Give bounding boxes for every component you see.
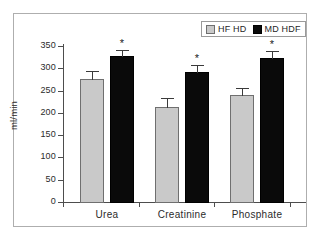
- x-tick-mark-0: [63, 203, 64, 207]
- bar-urea-md-hdf: [110, 56, 134, 203]
- bar-creatinine-hf-hd: [155, 107, 179, 203]
- error-cap-phosphate-md-hdf: [266, 51, 279, 52]
- y-tick-label-100: 100: [16, 152, 56, 161]
- bar-creatinine-md-hdf: [185, 72, 209, 203]
- y-tick-label-0: 0: [16, 197, 56, 206]
- y-tick-label-50: 50: [16, 175, 56, 184]
- significance-star-phosphate: *: [265, 39, 279, 50]
- x-tick-mark-2: [214, 203, 215, 207]
- significance-star-creatinine: *: [190, 53, 204, 64]
- legend-item-hf-hd[interactable]: HF HD: [206, 24, 247, 34]
- significance-star-urea: *: [115, 38, 129, 49]
- error-cap-creatinine-hf-hd: [161, 98, 174, 99]
- bar-urea-hf-hd: [80, 79, 104, 203]
- y-tick-mark-350: [58, 46, 63, 47]
- legend-swatch-md-hdf-icon: [253, 25, 262, 34]
- y-tick-mark-300: [58, 68, 63, 69]
- legend-label-md-hdf: MD HDF: [265, 24, 301, 34]
- legend-swatch-hf-hd-icon: [206, 25, 215, 34]
- bar-phosphate-md-hdf: [260, 58, 284, 203]
- y-tick-mark-100: [58, 157, 63, 158]
- error-cap-urea-md-hdf: [116, 50, 129, 51]
- y-tick-label-150: 150: [16, 130, 56, 139]
- y-tick-label-350: 350: [16, 41, 56, 50]
- legend-label-hf-hd: HF HD: [218, 24, 247, 34]
- x-tick-mark-1: [139, 203, 140, 207]
- legend-item-md-hdf[interactable]: MD HDF: [253, 24, 301, 34]
- x-tick-mark-3: [290, 203, 291, 207]
- y-tick-mark-150: [58, 135, 63, 136]
- error-cap-phosphate-hf-hd: [236, 88, 249, 89]
- error-bar-urea-md-hdf: [122, 50, 123, 57]
- error-bar-urea-hf-hd: [92, 71, 93, 80]
- error-bar-phosphate-hf-hd: [242, 88, 243, 96]
- figure-canvas: ml/min 350 300 250 200 150 100 50 0 *: [0, 0, 321, 238]
- error-bar-phosphate-md-hdf: [272, 51, 273, 59]
- y-axis-line: [63, 44, 64, 203]
- error-bar-creatinine-hf-hd: [167, 98, 168, 108]
- y-tick-mark-50: [58, 180, 63, 181]
- y-tick-label-200: 200: [16, 108, 56, 117]
- x-category-label-phosphate: Phosphate: [212, 209, 302, 220]
- y-tick-label-300: 300: [16, 63, 56, 72]
- y-tick-label-250: 250: [16, 86, 56, 95]
- chart-legend: HF HD MD HDF: [201, 21, 306, 37]
- bar-phosphate-hf-hd: [230, 95, 254, 203]
- error-cap-urea-hf-hd: [86, 71, 99, 72]
- error-cap-creatinine-md-hdf: [191, 65, 204, 66]
- y-tick-mark-200: [58, 113, 63, 114]
- y-tick-mark-250: [58, 91, 63, 92]
- error-bar-creatinine-md-hdf: [197, 65, 198, 73]
